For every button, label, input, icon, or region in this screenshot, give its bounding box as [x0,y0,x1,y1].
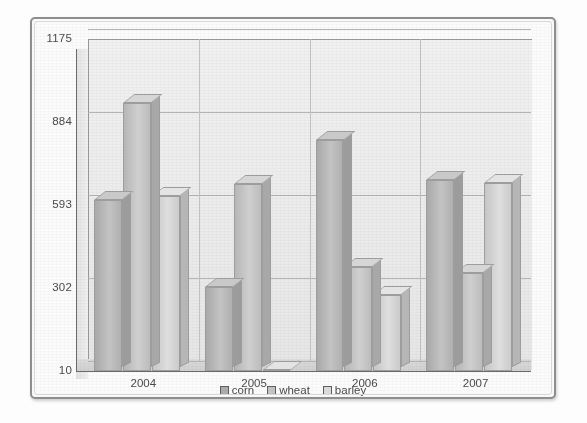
chart-frame: 103025938841175 2004200520062007 cornwhe… [30,17,556,399]
corn-swatch [220,386,229,395]
bar-face [426,180,454,371]
bar-side [401,287,410,367]
bar-chart: 103025938841175 2004200520062007 cornwhe… [32,19,554,397]
bar-side [343,132,352,367]
chart-legend: cornwheatbarley [32,384,554,396]
bar-barley-2005[interactable] [263,370,291,371]
bar-corn-2005[interactable] [205,287,233,371]
legend-item-corn[interactable]: corn [220,384,254,396]
bar-corn-2004[interactable] [94,200,122,371]
legend-item-barley[interactable]: barley [323,384,366,396]
barley-swatch [323,386,332,395]
bar-series-group [32,19,554,397]
bar-corn-2007[interactable] [426,180,454,371]
bar-side [483,264,492,367]
bar-side [233,279,242,367]
chart-screenshot: 103025938841175 2004200520062007 cornwhe… [0,0,587,423]
bar-side [151,95,160,367]
bar-face [316,140,344,371]
bar-side [122,192,131,367]
bar-side [372,259,381,367]
legend-label: corn [232,384,254,396]
bar-side [454,172,463,367]
bar-face [205,287,233,371]
bar-side [180,187,189,367]
legend-label: barley [335,384,366,396]
wheat-swatch [267,386,276,395]
bar-corn-2006[interactable] [316,140,344,371]
legend-item-wheat[interactable]: wheat [267,384,310,396]
bar-face [94,200,122,371]
bar-side [262,176,271,367]
legend-label: wheat [279,384,310,396]
bar-side [512,175,521,367]
